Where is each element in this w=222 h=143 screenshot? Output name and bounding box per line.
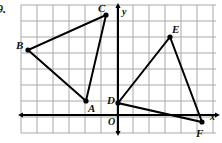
vertex-dot-f [199, 119, 204, 124]
vertex-label-a: A [88, 103, 95, 114]
coordinate-grid-figure: 9. A B C D E F x y O [0, 0, 222, 143]
vertex-label-e: E [172, 24, 179, 35]
vertex-dot-e [167, 34, 172, 39]
problem-number: 9. [0, 2, 6, 17]
vertex-label-b: B [16, 40, 23, 51]
triangle-abc [28, 15, 106, 101]
vertex-label-f: F [196, 128, 203, 139]
vertex-dot-b [25, 47, 30, 52]
x-axis-label: x [210, 112, 215, 122]
vertex-label-d: D [107, 95, 115, 106]
origin-label: O [108, 117, 115, 127]
triangle-def [118, 37, 202, 122]
y-axis-label: y [122, 7, 126, 17]
vertex-label-c: C [98, 3, 105, 14]
vertex-dot-d [115, 100, 120, 105]
